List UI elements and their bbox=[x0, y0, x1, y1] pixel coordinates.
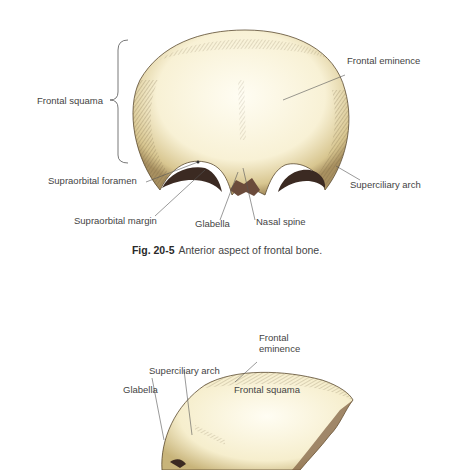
caption-figure-number: Fig. 20-5 bbox=[132, 244, 175, 256]
label-frontal-squama: Frontal squama bbox=[37, 96, 103, 106]
label-glabella: Glabella bbox=[195, 219, 230, 229]
label-frontal-eminence: Frontal eminence bbox=[347, 56, 420, 66]
frontal-bone-anterior-illustration bbox=[0, 0, 454, 240]
label-supraorbital-margin: Supraorbital margin bbox=[74, 216, 157, 226]
label-superciliary-arch: Superciliary arch bbox=[149, 366, 220, 376]
frontal-squama-bracket bbox=[110, 40, 128, 163]
caption-text: Anterior aspect of frontal bone. bbox=[179, 244, 323, 256]
figure-lateral-frontal-bone: Frontal eminence Superciliary arch Glabe… bbox=[0, 330, 454, 470]
label-nasal-spine: Nasal spine bbox=[256, 217, 306, 227]
figure-caption: Fig. 20-5Anterior aspect of frontal bone… bbox=[0, 244, 454, 256]
label-frontal-eminence-line1: Frontal bbox=[259, 333, 289, 343]
label-glabella: Glabella bbox=[123, 385, 158, 395]
label-frontal-squama: Frontal squama bbox=[234, 385, 300, 395]
figure-anterior-frontal-bone: Frontal eminence Frontal squama Supraorb… bbox=[0, 0, 454, 260]
label-frontal-eminence-line2: eminence bbox=[259, 344, 300, 354]
label-supraorbital-foramen: Supraorbital foramen bbox=[48, 176, 137, 186]
frontal-bone-lateral-illustration bbox=[0, 330, 454, 470]
label-superciliary-arch: Superciliary arch bbox=[350, 180, 421, 190]
